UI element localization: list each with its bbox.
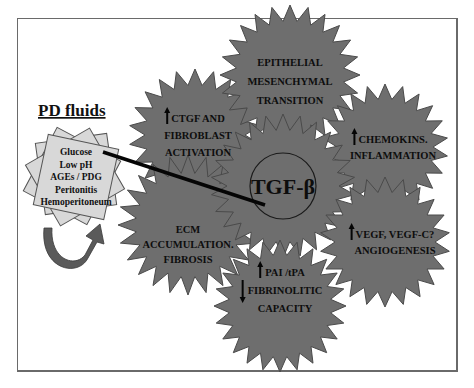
pai-label-line: CAPACITY — [258, 303, 313, 314]
emt-effect-label: EPITHELIALMESENCHYMALTRANSITION — [247, 57, 332, 106]
ctgf-label-line: FIBROBLAST — [164, 130, 232, 141]
tgf-beta-diagram: TGF-β PD fluids GlucoseLow pHAGEs / PDGP… — [0, 0, 474, 388]
chemokins-label-line: CHEMOKINS. — [358, 134, 428, 145]
emt-label-line: TRANSITION — [257, 95, 324, 106]
chemokins-label-line: INFLAMMATION — [350, 150, 437, 161]
pd-fluid-factor: Low pH — [60, 160, 94, 170]
pd-fluid-factor: AGEs / PDG — [50, 172, 102, 182]
pd-fluid-factor: Hemoperitoneum — [40, 197, 111, 207]
ecm-label-line: FIBROSIS — [163, 254, 212, 265]
pai-label-line: FIBRINOLITIC — [248, 285, 323, 296]
pd-fluids-title: PD fluids — [38, 101, 106, 120]
ecm-label-line: ECM — [176, 224, 201, 235]
ctgf-label-line: ACTIVATION — [165, 147, 232, 158]
pd-fluid-factor: Glucose — [60, 147, 92, 157]
ecm-label-line: ACCUMULATION. — [142, 239, 233, 250]
tgf-beta-label: TGF-β — [251, 174, 315, 199]
vegf-label-line: VEGF, VEGF-C? — [356, 229, 435, 240]
vegf-label-line: ANGIOGENESIS — [354, 245, 435, 256]
pai-label-line: PAI /tPA — [265, 267, 305, 278]
ctgf-label-line: CTGF AND — [171, 113, 225, 124]
emt-label-line: EPITHELIAL — [257, 57, 322, 68]
recycle-arrow-icon — [44, 224, 104, 268]
pd-fluid-factor: Peritonitis — [55, 185, 98, 195]
ctgf-effect-label: CTGF ANDFIBROBLASTACTIVATION — [164, 113, 232, 158]
emt-label-line: MESENCHYMAL — [247, 76, 332, 87]
